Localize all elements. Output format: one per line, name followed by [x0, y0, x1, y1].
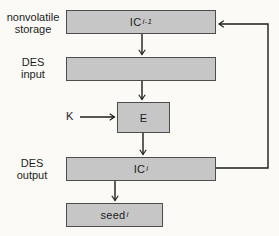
box-ic-prev-subscript: i-1	[142, 18, 152, 26]
label-des-output: DES output	[8, 158, 56, 181]
label-k: K	[66, 110, 73, 122]
feedback-line-ici-to-icprev	[216, 24, 268, 168]
label-nonvolatile: nonvolatile	[5, 12, 61, 24]
box-encrypt-e: E	[117, 102, 170, 133]
label-des-input-line1: DES	[10, 57, 56, 69]
box-encrypt-label: E	[140, 112, 148, 124]
box-ic-current: ICi	[66, 157, 216, 181]
box-ic-prev-label: IC	[130, 16, 142, 28]
box-ic-current-subscript: i	[146, 165, 148, 173]
label-des-input-line2: input	[10, 69, 56, 81]
box-ic-prev: ICi-1	[66, 10, 216, 34]
label-storage: storage	[5, 24, 61, 36]
label-des-output-line2: output	[8, 170, 56, 182]
box-des-input-register	[66, 57, 216, 81]
seed-generation-diagram: nonvolatile storage DES input DES output…	[0, 0, 279, 236]
label-des-output-line1: DES	[8, 158, 56, 170]
label-nonvolatile-storage: nonvolatile storage	[5, 12, 61, 35]
box-seed-subscript: i	[126, 211, 128, 219]
box-ic-current-label: IC	[134, 163, 146, 175]
box-seed: seedi	[66, 203, 163, 227]
label-des-input: DES input	[10, 57, 56, 80]
box-seed-label: seed	[100, 209, 125, 221]
